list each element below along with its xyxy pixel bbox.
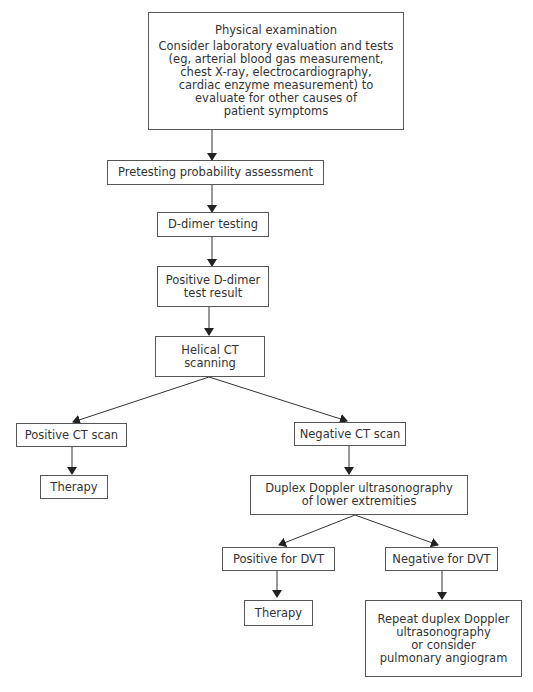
node-line: Repeat duplex Doppler: [377, 613, 509, 626]
node-title: Physical examination: [215, 24, 337, 37]
node-line: Positive CT scan: [25, 429, 118, 442]
node-line: test result: [184, 287, 242, 300]
node-pretesting-probability: Pretesting probability assessment: [107, 160, 324, 185]
node-line: Helical CT: [181, 344, 238, 357]
node-therapy-dvt: Therapy: [244, 600, 313, 626]
node-line: Pretesting probability assessment: [118, 166, 313, 179]
node-line: Negative CT scan: [300, 428, 401, 441]
node-line: Therapy: [255, 607, 302, 620]
node-line: Positive for DVT: [233, 553, 324, 566]
node-line: D-dimer testing: [168, 218, 258, 231]
node-negative-ct-scan: Negative CT scan: [294, 422, 406, 446]
node-negative-dvt: Negative for DVT: [385, 547, 498, 571]
node-line: Positive D-dimer: [166, 274, 261, 287]
node-line: scanning: [184, 357, 236, 370]
node-therapy-ct: Therapy: [40, 475, 108, 499]
node-repeat-duplex: Repeat duplex Doppler ultrasonography or…: [365, 600, 522, 677]
arrow-duplex-to-negdvt: [355, 515, 438, 545]
arrow-helical-to-posct: [73, 377, 209, 422]
node-line: pulmonary angiogram: [380, 652, 508, 665]
node-line: of lower extremities: [302, 495, 417, 508]
node-positive-ddimer: Positive D-dimer test result: [157, 266, 269, 307]
node-line: patient symptoms: [224, 105, 329, 118]
node-line: ultrasonography: [396, 626, 491, 639]
node-line: Negative for DVT: [392, 553, 490, 566]
node-positive-ct-scan: Positive CT scan: [16, 423, 127, 447]
node-helical-ct: Helical CT scanning: [155, 336, 265, 377]
node-ddimer-testing: D-dimer testing: [157, 212, 269, 237]
arrow-duplex-to-posdvt: [279, 515, 355, 545]
node-physical-examination: Physical examination Consider laboratory…: [148, 12, 404, 130]
arrow-helical-to-negct: [209, 377, 347, 421]
node-line: or consider: [411, 639, 475, 652]
node-duplex-doppler: Duplex Doppler ultrasonography of lower …: [250, 475, 468, 515]
node-positive-dvt: Positive for DVT: [222, 547, 335, 571]
node-line: Therapy: [50, 481, 97, 494]
